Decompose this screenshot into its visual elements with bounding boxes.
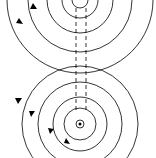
direction-arrow-icons xyxy=(15,3,70,144)
dashed-guides xyxy=(76,8,86,112)
bottom-wire-field-lines xyxy=(22,66,138,158)
top-wire-field-lines xyxy=(7,0,153,73)
field-diagram xyxy=(0,0,156,158)
current-out-dot-icon xyxy=(79,123,82,126)
